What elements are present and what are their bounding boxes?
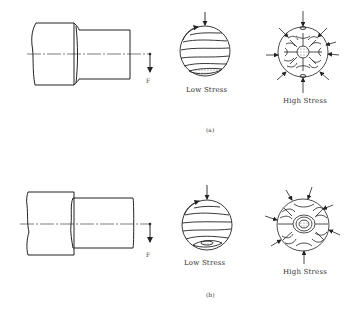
shaft-b [20, 192, 151, 255]
force-label-a: F [146, 77, 150, 84]
high-stress-label-b: High Stress [283, 268, 327, 276]
high-stress-label-a: High Stress [283, 97, 327, 105]
caption-a: (a) [206, 126, 214, 133]
low-stress-section-a [180, 12, 230, 76]
shaft-a [27, 23, 151, 85]
low-stress-label-b: Low Stress [184, 259, 225, 267]
low-stress-section-b [182, 185, 232, 250]
high-stress-section-a [266, 11, 339, 93]
high-stress-section-b [265, 187, 340, 264]
force-label-b: F [146, 251, 150, 258]
fatigue-fracture-diagram [0, 0, 357, 312]
caption-b: (b) [206, 291, 215, 298]
low-stress-label-a: Low Stress [186, 86, 227, 94]
